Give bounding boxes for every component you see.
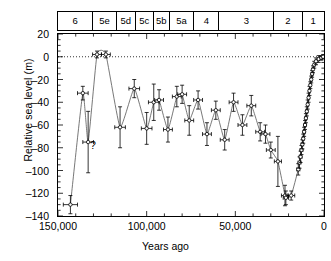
stage-cell-1: 1 <box>303 12 324 30</box>
x-tick-label: 50,000 <box>219 221 251 232</box>
y-tick-label: –40 <box>0 97 49 108</box>
x-axis-title: Years ago <box>0 240 331 252</box>
stage-cell-5c: 5c <box>136 12 154 30</box>
plot-area <box>57 33 325 217</box>
y-tick-label: 20 <box>0 29 49 40</box>
x-tick-label: 150,000 <box>39 221 77 232</box>
stage-cell-5d: 5d <box>117 12 137 30</box>
plot-canvas <box>58 34 324 216</box>
stage-cell-6: 6 <box>58 12 93 30</box>
stage-cell-5a: 5a <box>170 12 195 30</box>
annotation-question-mark: ? <box>90 140 96 151</box>
sea-level-chart-figure: 65e5d5c5b5a4321 Relative sea level (m) Y… <box>0 0 331 261</box>
x-tick-label: 0 <box>321 221 327 232</box>
stage-cell-5e: 5e <box>93 12 116 30</box>
y-tick-label: –100 <box>0 165 49 176</box>
y-tick-label: 0 <box>0 52 49 63</box>
marine-isotope-stage-axis: 65e5d5c5b5a4321 <box>57 11 325 31</box>
y-tick-label: –120 <box>0 188 49 199</box>
y-tick-label: –60 <box>0 120 49 131</box>
stage-cell-5b: 5b <box>154 12 170 30</box>
x-tick-label: 100,000 <box>128 221 166 232</box>
stage-cell-4: 4 <box>194 12 219 30</box>
stage-cell-2: 2 <box>274 12 302 30</box>
y-tick-label: –20 <box>0 74 49 85</box>
stage-cell-3: 3 <box>219 12 274 30</box>
y-tick-label: –80 <box>0 143 49 154</box>
